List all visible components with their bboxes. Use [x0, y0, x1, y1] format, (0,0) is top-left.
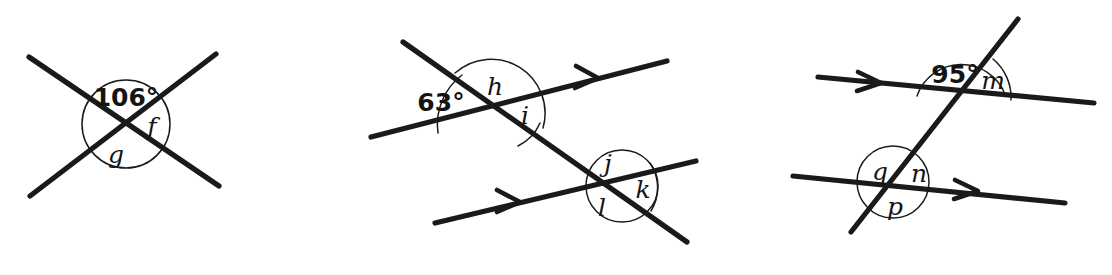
figure-3-transversal-parallels: 95° m q n p	[793, 19, 1094, 232]
angle-label-j: j	[599, 149, 612, 178]
angle-label-m: m	[981, 66, 1005, 95]
parallel-arrow-icon-upper-f2	[575, 66, 598, 88]
angle-label-q: q	[872, 157, 888, 186]
angle-label-63: 63°	[417, 88, 464, 117]
angle-label-g: g	[108, 140, 124, 169]
angle-label-p: p	[887, 192, 903, 221]
angle-label-l: l	[598, 193, 606, 222]
angle-label-k: k	[635, 175, 650, 204]
angle-label-95: 95°	[931, 60, 978, 89]
parallel-arrow-icon-lower-f2	[497, 190, 520, 212]
angle-label-i: i	[521, 101, 529, 130]
figure-2-transversal-parallels: 63° h i j k l	[371, 42, 696, 242]
angle-label-h: h	[487, 72, 503, 101]
angle-label-n: n	[911, 159, 927, 188]
figure-1-crossing-lines: 106° f g	[29, 54, 219, 196]
transversal-line-f2	[403, 42, 687, 242]
diagram-canvas: 106° f g 63° h i j	[0, 0, 1112, 275]
angle-label-f: f	[145, 112, 160, 141]
transversal-line-f3	[851, 19, 1018, 232]
angle-diagrams-sheet: 106° f g 63° h i j	[0, 0, 1112, 275]
angle-label-106: 106°	[94, 83, 159, 112]
